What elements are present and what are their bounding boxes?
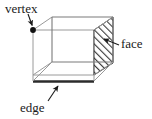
cube-diagram: vertex face edge bbox=[0, 0, 152, 119]
vertex-dot-marker bbox=[30, 27, 36, 33]
figure-container: vertex face edge bbox=[0, 0, 152, 119]
vertex-label: vertex bbox=[5, 1, 38, 16]
face-label: face bbox=[121, 36, 143, 51]
edge-label: edge bbox=[20, 100, 45, 115]
